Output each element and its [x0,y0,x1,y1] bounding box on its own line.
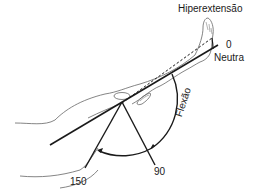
neutral-axis-line [50,45,218,145]
flexion-arc [99,74,177,156]
knee-range-of-motion-diagram [0,0,253,193]
neutral-label: Neutra [214,53,244,63]
hyperextension-label: Hiperextensão [178,4,242,14]
angle-150-label: 150 [70,177,87,187]
angle-90-label: 90 [154,167,165,177]
flexion-150-line [85,102,122,168]
zero-degree-label: 0 [226,40,232,50]
